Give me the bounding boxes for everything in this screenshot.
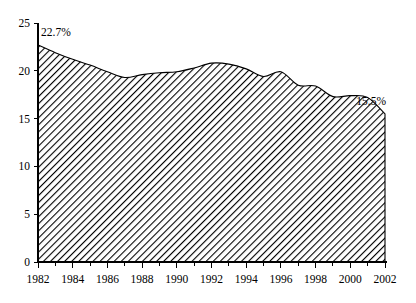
series-area-path	[38, 45, 385, 262]
x-tick-label: 1996	[269, 273, 292, 285]
x-tick-label: 2000	[339, 273, 362, 285]
y-tick-label: 15	[19, 113, 31, 125]
y-axis-tick-labels: 0510152025	[19, 17, 31, 268]
x-tick-label: 1994	[235, 273, 258, 285]
y-axis-ticks	[34, 23, 38, 262]
x-tick-label: 1998	[304, 273, 327, 285]
y-tick-label: 10	[19, 160, 31, 172]
end-value-label: 15.5%	[356, 95, 386, 107]
x-tick-label: 1986	[96, 273, 119, 285]
chart-container: 0510152025 19821984198619881990199219941…	[0, 0, 416, 303]
plot-area	[38, 45, 385, 262]
x-tick-label: 1990	[165, 273, 188, 285]
x-tick-label: 1992	[200, 273, 223, 285]
y-tick-label: 5	[24, 208, 30, 220]
x-tick-label: 1988	[131, 273, 154, 285]
y-tick-label: 25	[19, 17, 31, 29]
y-tick-label: 0	[24, 256, 30, 268]
x-tick-label: 1982	[27, 273, 50, 285]
x-tick-label: 1984	[61, 273, 84, 285]
x-tick-label: 2002	[374, 273, 397, 285]
x-axis-tick-labels: 1982198419861988199019921994199619982000…	[27, 273, 397, 285]
area-chart: 0510152025 19821984198619881990199219941…	[0, 0, 416, 303]
y-tick-label: 20	[19, 65, 31, 77]
start-value-label: 22.7%	[41, 26, 71, 38]
x-axis-ticks	[38, 262, 385, 268]
